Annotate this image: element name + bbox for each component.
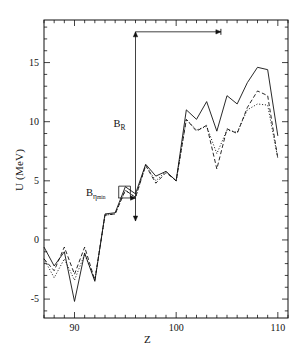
y-tick-label: 10	[18, 116, 39, 127]
vertical-arrow-b-r-head-bottom	[133, 216, 137, 221]
y-tick-label: 15	[18, 57, 39, 68]
plot-canvas	[0, 0, 306, 357]
y-axis-label: U (MeV)	[13, 125, 25, 215]
figure-panel: U (MeV) Z 90100110-5051015BRBηmin	[0, 0, 306, 357]
series-solid-curve	[44, 67, 278, 301]
y-tick-label: -5	[18, 293, 39, 304]
vertical-arrow-b-r-head-top	[133, 32, 137, 37]
series-dashed-curve	[44, 91, 278, 280]
y-tick-label: 5	[18, 175, 39, 186]
x-tick-label: 100	[165, 322, 187, 333]
series-dotted-curve	[44, 104, 278, 280]
b-eta-label: Bηmin	[86, 187, 106, 201]
x-axis-label: Z	[144, 333, 151, 345]
x-tick-label: 110	[267, 322, 289, 333]
b-eta-label-main: B	[86, 187, 93, 198]
b-r-label-main: B	[114, 118, 121, 129]
x-tick-label: 90	[64, 322, 86, 333]
b-r-label-subscript: R	[121, 123, 126, 132]
y-tick-label: 0	[18, 234, 39, 245]
b-r-label: BR	[114, 118, 126, 132]
b-eta-label-subsubscript: min	[97, 194, 106, 200]
horizontal-arrow-top-head	[216, 30, 221, 34]
